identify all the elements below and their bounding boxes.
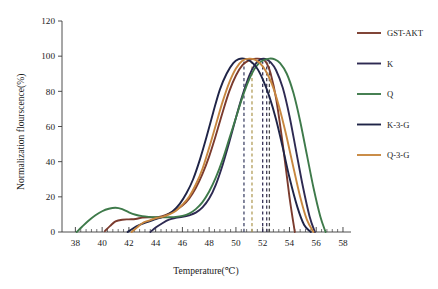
x-tick-label: 48 — [205, 238, 215, 248]
x-tick-label: 40 — [98, 238, 108, 248]
x-tick-label: 42 — [124, 238, 134, 248]
y-tick-label: 40 — [46, 157, 56, 167]
x-tick-label: 44 — [151, 238, 161, 248]
chart-canvas: Normalization flourscence(%) Temperature… — [0, 0, 438, 289]
x-tick-label: 52 — [258, 238, 268, 248]
legend-label: K — [387, 59, 394, 69]
series-curves — [77, 58, 326, 232]
y-axis-title-label: Normalization flourscence(%) — [15, 74, 27, 190]
legend-item-k-3-g: K-3-G — [357, 120, 409, 130]
y-axis-ticks: 020406080100120 — [41, 16, 62, 237]
x-tick-label: 54 — [285, 238, 295, 248]
y-tick-label: 120 — [41, 16, 55, 26]
axis-lines — [62, 21, 351, 232]
x-axis-ticks: 3840424446485052545658 — [71, 227, 348, 248]
legend-item-q-3-g: Q-3-G — [357, 150, 409, 160]
y-axis-title: Normalization flourscence(%) — [15, 74, 27, 190]
y-tick-label: 60 — [46, 122, 56, 132]
legend-label: Q — [387, 89, 394, 99]
y-tick-label: 80 — [46, 87, 56, 97]
legend-item-q: Q — [357, 89, 394, 99]
y-tick-label: 100 — [41, 51, 55, 61]
y-tick-label: 20 — [46, 192, 56, 202]
x-axis-title: Temperature(℃) — [173, 265, 238, 277]
x-tick-label: 50 — [231, 238, 241, 248]
x-tick-label: 56 — [312, 238, 322, 248]
legend-label: K-3-G — [387, 120, 409, 130]
legend-item-gst-akt: GST-AKT — [357, 28, 424, 38]
melting-curve-figure: Normalization flourscence(%) Temperature… — [0, 0, 438, 289]
x-tick-label: 38 — [71, 238, 81, 248]
legend: GST-AKTKQK-3-GQ-3-G — [357, 28, 424, 160]
legend-label: GST-AKT — [387, 28, 424, 38]
x-axis-title-label: Temperature(℃) — [173, 265, 238, 277]
y-tick-label: 0 — [50, 227, 55, 237]
legend-item-k: K — [357, 59, 394, 69]
x-tick-label: 46 — [178, 238, 188, 248]
legend-label: Q-3-G — [387, 150, 409, 160]
x-tick-label: 58 — [338, 238, 348, 248]
